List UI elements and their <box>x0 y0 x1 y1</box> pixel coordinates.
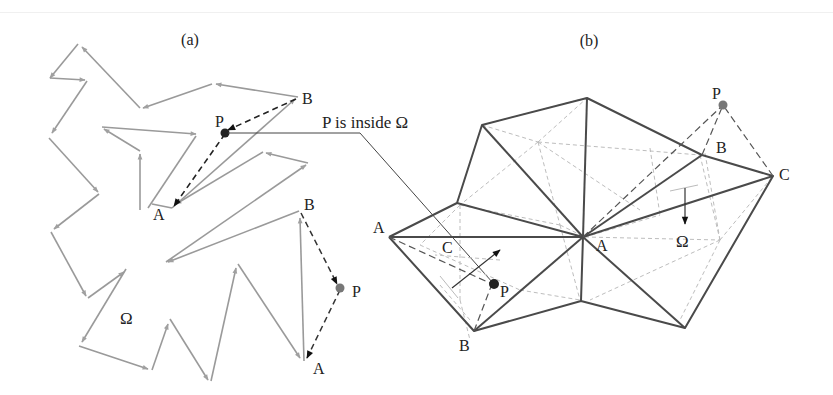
callout: P is inside Ω <box>228 113 493 283</box>
point-p-b1 <box>489 279 499 289</box>
label-a-b1: A <box>373 219 385 236</box>
case-outside: B P A <box>301 196 361 377</box>
polygon-omega <box>49 44 308 381</box>
label-p-b1: P <box>500 283 509 300</box>
label-a-a1: A <box>153 206 165 223</box>
region-omega-a: Ω <box>120 309 133 328</box>
label-b-a2: B <box>304 196 315 213</box>
panel-a-label: (a) <box>181 31 199 49</box>
panel-b-label: (b) <box>580 32 599 50</box>
label-p-a2: P <box>352 283 361 300</box>
panel-a: (a) <box>49 31 361 381</box>
label-p-b2: P <box>712 85 721 102</box>
omega-normal: Ω <box>670 185 698 251</box>
case-inside: P B A <box>153 90 313 223</box>
label-c-b1: C <box>442 239 453 256</box>
label-p-a1: P <box>215 113 224 130</box>
panel-b: (b) <box>373 32 790 354</box>
label-b-a1: B <box>302 90 313 107</box>
label-a-a2: A <box>313 360 325 377</box>
label-c-b2: C <box>779 166 790 183</box>
top-border <box>0 12 833 13</box>
mesh-dashed <box>420 98 773 340</box>
label-b-b2: B <box>716 139 727 156</box>
figure-canvas: (a) <box>0 0 833 395</box>
label-a-b2: A <box>596 237 608 254</box>
callout-text: P is inside Ω <box>322 113 408 132</box>
figure: (a) <box>0 0 833 395</box>
mesh-solid <box>389 98 773 331</box>
label-b-b1: B <box>459 337 470 354</box>
point-p-outside <box>336 284 345 293</box>
region-omega-b: Ω <box>676 232 689 251</box>
